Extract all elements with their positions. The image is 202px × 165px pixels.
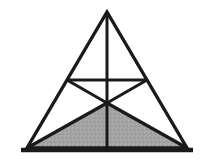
geometry-figure: Shaded triangle subdivision figure <box>0 0 202 165</box>
figure-canvas: Shaded triangle subdivision figure <box>0 0 202 165</box>
